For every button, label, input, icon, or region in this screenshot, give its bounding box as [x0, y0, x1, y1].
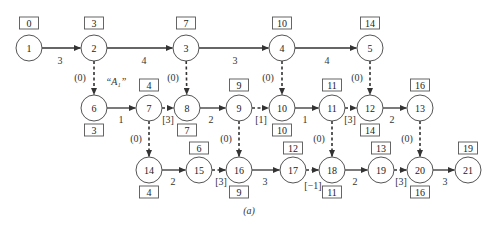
- edge-label-19-to-20: [3]: [395, 176, 407, 187]
- time-box-node-18: 11: [323, 186, 342, 198]
- time-box-node-7: 4: [140, 79, 159, 91]
- time-box-node-15: 6: [190, 142, 209, 154]
- annotation-a1: “A₁”: [106, 76, 127, 87]
- node-11: 11: [319, 95, 345, 121]
- node-label: 3: [184, 43, 189, 54]
- edge-label-3-to-4: 3: [233, 55, 238, 66]
- edge-label-7-to-8: [3]: [162, 114, 174, 125]
- time-box-value: 11: [327, 187, 337, 198]
- time-box-value: 9: [237, 187, 242, 198]
- edge-label-15-to-16: [3]: [215, 176, 227, 187]
- node-label: 16: [234, 165, 244, 176]
- edge-label-9-to-10: [1]: [255, 114, 267, 125]
- time-box-value: 10: [277, 125, 287, 136]
- node-label: 10: [277, 103, 287, 114]
- time-box-node-10: 10: [273, 124, 292, 136]
- edge-label-11-to-18: (0): [313, 133, 325, 145]
- time-box-value: 19: [463, 143, 473, 154]
- edge-label-1-to-2: 3: [58, 55, 63, 66]
- time-box-value: 7: [184, 18, 189, 29]
- time-box-node-13: 16: [411, 79, 430, 91]
- edge-3-to-8: [186, 61, 187, 95]
- edge-label-12-to-13: 2: [390, 114, 395, 125]
- edge-label-14-to-15: 2: [171, 176, 176, 187]
- time-box-node-1: 0: [20, 17, 39, 29]
- edge-label-2-to-3: 4: [142, 55, 147, 66]
- node-label: 18: [327, 165, 337, 176]
- time-box-value: 14: [365, 18, 375, 29]
- edge-label-9-to-16: (0): [220, 133, 232, 145]
- figure-caption: (a): [243, 205, 255, 217]
- time-box-value: 14: [365, 125, 375, 136]
- time-box-node-9: 9: [230, 79, 249, 91]
- node-label: 1: [27, 43, 32, 54]
- edge-label-13-to-20: (0): [401, 133, 413, 145]
- time-box-node-12: 14: [361, 124, 380, 136]
- edge-label-6-to-7: 1: [119, 114, 124, 125]
- node-3: 3: [173, 35, 199, 61]
- node-12: 12: [357, 95, 383, 121]
- node-label: 21: [463, 165, 473, 176]
- nodes-layer: 123456789101112131415161718192021: [16, 35, 481, 183]
- time-box-value: 12: [288, 143, 298, 154]
- node-label: 7: [147, 103, 152, 114]
- time-box-node-5: 14: [361, 17, 380, 29]
- edge-label-20-to-21: 3: [443, 176, 448, 187]
- time-box-value: 6: [197, 143, 202, 154]
- edge-label-17-to-18: [−1]: [304, 180, 321, 191]
- edge-label-5-to-12: (0): [351, 72, 363, 84]
- node-10: 10: [269, 95, 295, 121]
- edge-label-7-to-14: (0): [130, 133, 142, 145]
- node-6: 6: [81, 95, 107, 121]
- node-20: 20: [407, 157, 433, 183]
- time-box-node-16: 9: [230, 186, 249, 198]
- time-box-node-3: 7: [177, 17, 196, 29]
- time-box-value: 7: [185, 125, 190, 136]
- node-label: 13: [415, 103, 425, 114]
- edge-label-2-to-6: (0): [74, 72, 86, 84]
- time-box-node-8: 7: [178, 124, 197, 136]
- node-label: 15: [194, 165, 204, 176]
- time-box-node-14: 4: [140, 186, 159, 198]
- time-box-value: 11: [327, 80, 337, 91]
- node-19: 19: [368, 157, 394, 183]
- node-1: 1: [16, 35, 42, 61]
- node-4: 4: [269, 35, 295, 61]
- node-label: 14: [144, 165, 154, 176]
- time-box-node-4: 10: [273, 17, 292, 29]
- edge-label-16-to-17: 3: [263, 176, 268, 187]
- node-18: 18: [319, 157, 345, 183]
- time-box-value: 9: [237, 80, 242, 91]
- node-8: 8: [174, 95, 200, 121]
- node-14: 14: [136, 157, 162, 183]
- time-box-node-21: 19: [459, 142, 478, 154]
- node-5: 5: [357, 35, 383, 61]
- node-17: 17: [280, 157, 306, 183]
- time-box-value: 3: [92, 125, 97, 136]
- time-box-value: 16: [415, 187, 425, 198]
- edge-label-3-to-8: (0): [167, 72, 179, 84]
- time-box-value: 4: [147, 80, 152, 91]
- node-label: 12: [365, 103, 375, 114]
- time-box-value: 0: [27, 18, 32, 29]
- node-label: 6: [92, 103, 97, 114]
- edge-label-4-to-5: 4: [325, 55, 330, 66]
- node-16: 16: [226, 157, 252, 183]
- node-7: 7: [136, 95, 162, 121]
- time-box-value: 13: [376, 143, 386, 154]
- time-box-node-20: 16: [411, 186, 430, 198]
- time-box-node-11: 11: [323, 79, 342, 91]
- node-9: 9: [226, 95, 252, 121]
- network-diagram: 123456789101112131415161718192021 037101…: [0, 0, 497, 233]
- time-box-value: 4: [147, 187, 152, 198]
- node-label: 5: [368, 43, 373, 54]
- node-2: 2: [81, 35, 107, 61]
- time-box-value: 3: [92, 18, 97, 29]
- edge-label-11-to-12: [3]: [344, 114, 356, 125]
- edge-label-8-to-9: 2: [209, 114, 214, 125]
- node-label: 8: [185, 103, 190, 114]
- time-box-node-17: 12: [284, 142, 303, 154]
- node-15: 15: [186, 157, 212, 183]
- node-13: 13: [407, 95, 433, 121]
- node-21: 21: [455, 157, 481, 183]
